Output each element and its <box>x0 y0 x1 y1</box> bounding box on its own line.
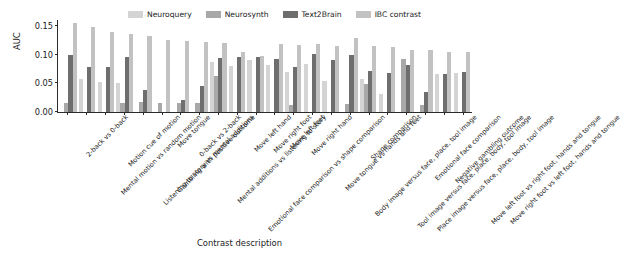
bar-group <box>59 20 78 112</box>
bar-ibc-contrast <box>297 45 301 112</box>
bar-ibc-contrast <box>428 50 432 112</box>
chart-legend: Neuroquery Neurosynth Text2Brain IBC con… <box>128 10 421 19</box>
legend-label-text2brain: Text2Brain <box>302 10 342 19</box>
bar-ibc-contrast <box>316 44 320 112</box>
bar-neuroquery <box>454 73 458 112</box>
bar-neuroquery <box>229 66 233 112</box>
legend-entry-text2brain: Text2Brain <box>283 10 342 19</box>
bar-neuroquery <box>379 94 383 112</box>
bar-neuroquery <box>247 60 251 112</box>
bar-neuroquery <box>322 81 326 112</box>
bar-ibc-contrast <box>91 27 95 112</box>
bar-group <box>96 20 115 112</box>
bar-ibc-contrast <box>391 47 395 112</box>
bar-ibc-contrast <box>372 46 376 112</box>
bar-group <box>171 20 190 112</box>
bar-neuroquery <box>435 74 439 112</box>
bar-neuroquery <box>304 64 308 112</box>
bar-group <box>134 20 153 112</box>
x-axis-label: Contrast description <box>0 238 479 248</box>
y-tick-label: 0.00 <box>35 108 53 116</box>
bar-ibc-contrast <box>110 32 114 113</box>
bar-ibc-contrast <box>73 23 77 112</box>
legend-swatch-neurosynth <box>206 11 221 18</box>
plot-area: 0.000.050.100.15 <box>57 20 472 113</box>
y-tick-label: 0.15 <box>35 22 53 30</box>
bar-ibc-contrast <box>335 46 339 112</box>
bar-ibc-contrast <box>222 43 226 112</box>
legend-entry-neuroquery: Neuroquery <box>128 10 192 19</box>
bar-neuroquery <box>266 65 270 112</box>
bar-ibc-contrast <box>410 50 414 112</box>
bar-group <box>321 20 340 112</box>
y-tick-mark <box>55 54 58 55</box>
bar-neurosynth <box>158 103 162 112</box>
bar-ibc-contrast <box>466 52 470 112</box>
y-tick-mark <box>55 82 58 83</box>
bar-group <box>415 20 434 112</box>
bar-neuroquery <box>98 82 102 112</box>
bar-group <box>153 20 172 112</box>
bar-ibc-contrast <box>354 38 358 112</box>
legend-entry-neurosynth: Neurosynth <box>206 10 269 19</box>
bar-group <box>434 20 453 112</box>
bar-group <box>78 20 97 112</box>
bar-group <box>190 20 209 112</box>
bar-ibc-contrast <box>147 36 151 112</box>
legend-label-neuroquery: Neuroquery <box>147 10 192 19</box>
y-tick-label: 0.05 <box>35 79 53 87</box>
bar-group <box>452 20 471 112</box>
y-axis-label: AUC <box>12 32 22 50</box>
bar-ibc-contrast <box>185 41 189 112</box>
bar-groups-container <box>58 20 472 112</box>
legend-swatch-text2brain <box>283 11 298 18</box>
bar-group <box>340 20 359 112</box>
y-tick-label: 0.10 <box>35 51 53 59</box>
x-axis-tick-labels: 2-back vs 0-backMental motion vs random … <box>57 114 471 234</box>
y-tick-mark <box>55 25 58 26</box>
x-tick-label: 2-back vs 0-back <box>86 114 131 159</box>
legend-label-ibc-contrast: IBC contrast <box>375 10 421 19</box>
bar-ibc-contrast <box>129 34 133 112</box>
bar-group <box>209 20 228 112</box>
bar-ibc-contrast <box>447 52 451 112</box>
bar-group <box>396 20 415 112</box>
legend-label-neurosynth: Neurosynth <box>225 10 269 19</box>
bar-ibc-contrast <box>241 52 245 112</box>
legend-swatch-neuroquery <box>128 11 143 18</box>
bar-group <box>115 20 134 112</box>
bar-ibc-contrast <box>204 42 208 112</box>
bar-group <box>284 20 303 112</box>
legend-entry-ibc-contrast: IBC contrast <box>356 10 421 19</box>
bar-neuroquery <box>79 79 83 112</box>
legend-swatch-ibc-contrast <box>356 11 371 18</box>
bar-group <box>303 20 322 112</box>
y-tick-mark <box>55 111 58 112</box>
bar-group <box>265 20 284 112</box>
bar-ibc-contrast <box>166 40 170 112</box>
bar-group <box>228 20 247 112</box>
x-tick-label: Move right foot vs left foot, hands and … <box>509 114 621 226</box>
bar-group <box>377 20 396 112</box>
bar-ibc-contrast <box>260 56 264 112</box>
bar-group <box>359 20 378 112</box>
bar-group <box>246 20 265 112</box>
bar-ibc-contrast <box>279 44 283 112</box>
x-tick-label: Emotional face comparison vs shape compa… <box>267 114 386 233</box>
